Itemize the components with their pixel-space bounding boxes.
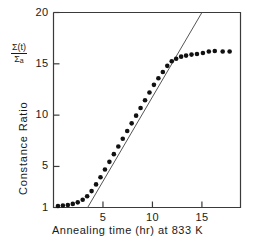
data-point	[94, 182, 99, 187]
data-point	[112, 152, 117, 157]
data-point	[125, 129, 130, 134]
data-point	[189, 52, 194, 57]
data-point	[107, 160, 112, 165]
data-point	[165, 64, 170, 69]
data-point	[156, 76, 161, 81]
data-point	[70, 202, 75, 207]
data-point	[56, 204, 61, 209]
fit-line	[88, 13, 202, 208]
data-point	[80, 198, 85, 203]
data-point	[138, 106, 143, 111]
y-tick-label: 1	[0, 201, 49, 213]
data-point	[184, 53, 189, 58]
data-point	[103, 167, 108, 172]
data-point	[120, 136, 125, 141]
data-point	[85, 194, 90, 199]
chart-figure: 15101520 51015 Σ(t) Σa Constance Ratio A…	[0, 0, 255, 243]
plot-frame	[54, 13, 241, 208]
data-point	[207, 49, 212, 54]
y-tick-label: 20	[0, 6, 49, 18]
data-point	[152, 83, 157, 88]
fit-line-segment	[88, 13, 202, 208]
data-point	[174, 56, 179, 61]
data-point	[179, 54, 184, 59]
data-point	[227, 49, 232, 54]
data-point	[116, 144, 121, 149]
data-point	[66, 203, 71, 208]
data-point	[98, 175, 103, 180]
x-tick-marks	[103, 202, 202, 208]
data-point	[75, 200, 80, 205]
data-point	[201, 51, 206, 56]
data-point	[134, 113, 139, 118]
y-tick-marks	[54, 13, 60, 208]
data-point	[195, 52, 200, 57]
data-point	[61, 203, 66, 208]
data-point	[212, 49, 217, 54]
y-axis-symbol-label: Σ(t) Σa	[11, 43, 27, 65]
data-point	[220, 49, 225, 54]
x-tick-label: 10	[132, 211, 172, 223]
y-axis-title: Constance Ratio	[17, 102, 29, 195]
x-tick-label: 15	[182, 211, 222, 223]
y-axis-symbol-denominator: Σa	[11, 54, 27, 64]
data-point	[169, 59, 174, 64]
data-point	[89, 189, 94, 194]
data-point	[129, 121, 134, 126]
data-point	[143, 98, 148, 103]
y-axis-symbol-numerator: Σ(t)	[11, 43, 27, 54]
x-axis-title: Annealing time (hr) at 833 K	[0, 224, 255, 236]
data-point	[161, 70, 166, 75]
data-point	[147, 90, 152, 95]
data-point-markers	[56, 49, 232, 209]
x-tick-label: 5	[83, 211, 123, 223]
